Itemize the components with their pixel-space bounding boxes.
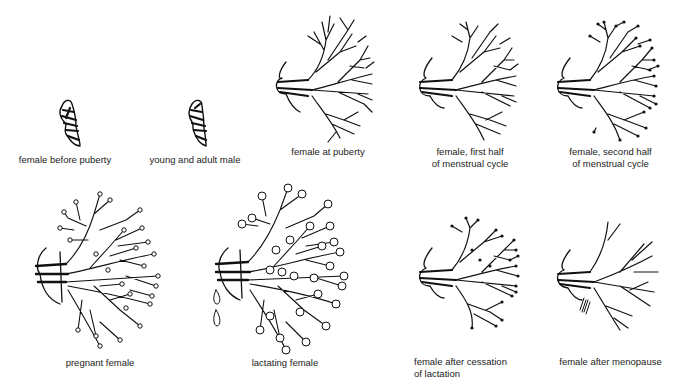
panel-female-second-half-menstrual: female, second half of menstrual cycle [548, 0, 673, 175]
small-duct-bud-illustration [0, 0, 130, 170]
caption: female at puberty [268, 146, 388, 158]
panel-young-and-adult-male: young and adult male [130, 0, 260, 175]
panel-female-after-cessation-lactation: female after cessation of lactation [410, 220, 535, 390]
caption: female, second half of menstrual cycle [548, 146, 673, 170]
branched-duct-illustration [268, 0, 388, 150]
caption: female before puberty [0, 154, 130, 166]
branched-duct-dots-illustration [410, 220, 535, 340]
dense-duct-small-alveoli-illustration [30, 190, 180, 370]
caption: young and adult male [130, 154, 260, 166]
panel-female-after-menopause: female after menopause [548, 220, 673, 390]
panel-female-first-half-menstrual: female, first half of menstrual cycle [410, 0, 530, 175]
small-duct-bud-illustration [130, 0, 260, 170]
branched-duct-illustration [410, 0, 530, 150]
panel-lactating-female: lactating female [210, 180, 370, 390]
small-alveoli [58, 192, 160, 348]
milk-drops [214, 290, 220, 326]
branched-duct-dots-illustration [548, 0, 673, 150]
caption: female after menopause [548, 356, 673, 368]
caption: female, first half of menstrual cycle [410, 146, 530, 170]
caption: pregnant female [30, 357, 170, 369]
panel-female-before-puberty: female before puberty [0, 0, 130, 175]
panel-pregnant-female: pregnant female [30, 190, 180, 390]
caption: female after cessation of lactation [414, 356, 539, 380]
sparse-duct-illustration [548, 220, 673, 340]
panel-female-at-puberty: female at puberty [268, 0, 388, 175]
caption: lactating female [210, 357, 360, 369]
dense-duct-large-alveoli-illustration [210, 180, 370, 370]
